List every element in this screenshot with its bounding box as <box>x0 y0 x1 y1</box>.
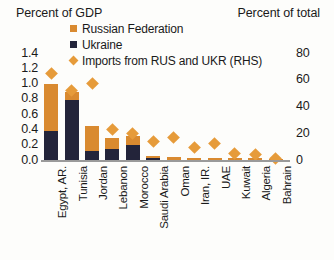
plot-area <box>41 53 286 160</box>
right-tick-label: 60 <box>296 73 330 86</box>
left-tick-label: 1.2 <box>0 62 38 75</box>
data-point-marker[interactable] <box>45 67 58 80</box>
category-label: Iran, IR. <box>199 166 211 256</box>
bar-segment-ukraine <box>44 131 58 160</box>
bar-segment-russia <box>105 138 119 149</box>
left-tick-label: 0.0 <box>0 154 38 167</box>
right-tick-label: 40 <box>296 100 330 113</box>
category-label: Jordan <box>97 166 109 256</box>
data-point-marker[interactable] <box>269 152 282 165</box>
bar-group[interactable] <box>123 53 143 160</box>
axis-baseline <box>41 160 290 162</box>
category-label: Bahrain <box>281 166 293 256</box>
bar-segment-ukraine <box>85 151 99 160</box>
left-tick-label: 0.8 <box>0 92 38 105</box>
category-label: UAE <box>220 166 232 256</box>
category-label: Lebanon <box>117 166 129 256</box>
bar-segment-ukraine <box>105 149 119 160</box>
bar-group[interactable] <box>82 53 102 160</box>
stacked-bar <box>85 126 99 160</box>
bar-group[interactable] <box>61 53 81 160</box>
left-tick-label: 0.4 <box>0 123 38 136</box>
bar-group[interactable] <box>184 53 204 160</box>
stacked-bar <box>65 92 79 160</box>
chart-figure: Percent of GDP Percent of total Russian … <box>0 0 334 260</box>
category-label: Egypt, AR. <box>56 166 68 256</box>
legend-item-russian-federation: Russian Federation <box>70 21 262 36</box>
bar-segment-ukraine <box>126 145 140 160</box>
data-point-marker[interactable] <box>106 123 119 136</box>
legend-item-ukraine: Ukraine <box>70 37 262 52</box>
left-tick-label: 1.4 <box>0 47 38 60</box>
bar-group[interactable] <box>164 53 184 160</box>
right-axis-title: Percent of total <box>238 6 320 20</box>
bar-group[interactable] <box>225 53 245 160</box>
right-tick-label: 80 <box>296 47 330 60</box>
category-label: Saudi Arabia <box>158 166 170 256</box>
data-point-marker[interactable] <box>208 138 221 151</box>
stacked-bar <box>105 138 119 160</box>
bar-group[interactable] <box>266 53 286 160</box>
square-swatch-icon <box>70 41 77 48</box>
bar-group[interactable] <box>245 53 265 160</box>
category-label: Oman <box>179 166 191 256</box>
bar-segment-ukraine <box>65 100 79 160</box>
left-tick-label: 0.6 <box>0 108 38 121</box>
stacked-bar <box>44 84 58 160</box>
bar-group[interactable] <box>143 53 163 160</box>
bar-group[interactable] <box>102 53 122 160</box>
legend-label: Russian Federation <box>82 22 183 36</box>
left-tick-label: 1.0 <box>0 77 38 90</box>
category-label: Tunisia <box>77 166 89 256</box>
bar-segment-russia <box>44 84 58 131</box>
category-label: Kuwait <box>240 166 252 256</box>
data-point-marker[interactable] <box>188 142 201 155</box>
category-label: Algeria <box>260 166 272 256</box>
bar-group[interactable] <box>204 53 224 160</box>
data-point-marker[interactable] <box>147 135 160 148</box>
data-point-marker[interactable] <box>167 131 180 144</box>
right-tick-label: 0 <box>296 154 330 167</box>
category-label: Morocco <box>138 166 150 256</box>
legend-label: Ukraine <box>82 38 122 52</box>
bar-group[interactable] <box>41 53 61 160</box>
square-swatch-icon <box>70 25 77 32</box>
data-point-marker[interactable] <box>86 77 99 90</box>
left-axis-title: Percent of GDP <box>16 6 102 20</box>
left-tick-label: 0.2 <box>0 138 38 151</box>
right-tick-label: 20 <box>296 127 330 140</box>
bar-segment-russia <box>85 126 99 150</box>
